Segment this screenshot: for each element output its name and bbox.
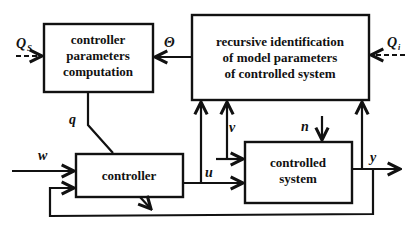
svg-text:Q: Q — [387, 35, 397, 50]
signal-u: u — [184, 102, 243, 183]
block-identification: recursive identification of model parame… — [192, 15, 369, 100]
block-label: parameters — [66, 48, 130, 63]
svg-text:Q: Q — [16, 36, 26, 51]
block-label: controlled — [270, 155, 327, 170]
svg-text:Θ: Θ — [164, 35, 175, 50]
signal-theta: Θ — [155, 35, 191, 57]
signal-y: y — [353, 102, 400, 169]
block-label: of model parameters — [223, 50, 338, 65]
svg-text:u: u — [205, 165, 213, 180]
signal-qi: Q i — [371, 35, 405, 55]
signal-qs: Q S — [16, 36, 42, 56]
block-label: recursive identification — [216, 34, 345, 49]
svg-text:q: q — [69, 112, 76, 127]
block-label: computation — [63, 64, 134, 79]
signal-q: q — [69, 93, 113, 153]
svg-text:i: i — [398, 43, 401, 52]
signal-v: v — [216, 102, 243, 159]
svg-text:S: S — [27, 43, 32, 53]
block-label: controller — [102, 168, 157, 183]
block-param-computation: controller parameters computation — [44, 24, 153, 92]
svg-text:y: y — [368, 150, 377, 165]
signal-w: w — [12, 148, 74, 171]
svg-text:v: v — [229, 120, 236, 135]
block-controlled-system: controlled system — [245, 142, 352, 203]
block-label: controller — [71, 32, 126, 47]
adaptive-control-diagram: controller parameters computation recurs… — [0, 0, 415, 227]
svg-text:n: n — [301, 119, 309, 134]
svg-text:w: w — [38, 148, 48, 163]
signal-n: n — [301, 116, 322, 140]
block-label: system — [279, 171, 317, 186]
block-label: of controlled system — [225, 66, 336, 81]
block-controller: controller — [76, 154, 183, 197]
